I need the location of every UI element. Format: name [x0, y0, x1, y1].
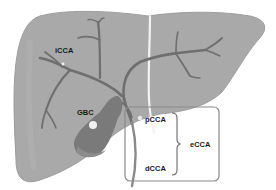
- liver-diagram: iCCA GBC pCCA dCCA eCCA: [0, 0, 276, 190]
- label-pcca: pCCA: [145, 115, 166, 124]
- pcca-marker: [138, 116, 142, 120]
- label-gbc: GBC: [77, 108, 94, 117]
- label-ecca: eCCA: [190, 140, 211, 149]
- label-dcca: dCCA: [145, 164, 166, 173]
- label-icca: iCCA: [55, 46, 74, 55]
- ecca-brace: [172, 113, 180, 175]
- icca-marker: [62, 63, 65, 66]
- common-bile-duct: [132, 122, 136, 186]
